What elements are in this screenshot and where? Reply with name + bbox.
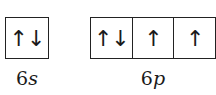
label-6s-number: 6 [16,67,28,89]
orbital-box-6p: ↑↓ ↑ ↑ [90,17,216,59]
label-6p-number: 6 [141,67,153,89]
orbital-box-6s: ↑↓ [5,17,49,59]
label-6s: 6s [5,67,49,89]
label-6s-letter: s [28,67,38,89]
label-6p: 6p [90,67,216,89]
orbital-6p-1: ↑↓ [91,18,132,58]
orbital-6p-3: ↑ [173,18,215,58]
orbital-6p-2: ↑ [132,18,174,58]
orbital-6s-1: ↑↓ [6,18,48,58]
label-6p-letter: p [153,67,165,89]
